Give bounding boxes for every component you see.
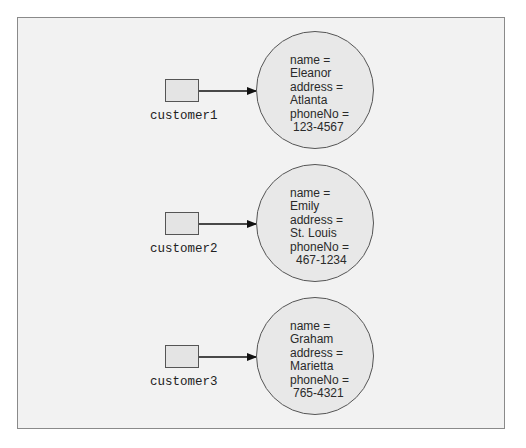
- field-value-phone: 467-1234: [290, 254, 349, 267]
- object-circle-customer2: name = Emily address = St. Louis phoneNo…: [256, 164, 374, 282]
- field-value-name: Eleanor: [290, 67, 349, 80]
- reference-box-customer3: [165, 345, 199, 368]
- field-label-name: name =: [290, 320, 349, 333]
- field-label-phone: phoneNo =: [290, 108, 349, 121]
- field-value-phone: 123-4567: [290, 121, 349, 134]
- field-value-address: Atlanta: [290, 94, 349, 107]
- field-value-name: Graham: [290, 333, 349, 346]
- variable-label-customer3: customer3: [150, 375, 218, 389]
- object-fields: name = Eleanor address = Atlanta phoneNo…: [290, 54, 349, 134]
- object-fields: name = Graham address = Marietta phoneNo…: [290, 320, 349, 400]
- field-value-phone: 765-4321: [290, 387, 349, 400]
- field-label-address: address =: [290, 214, 349, 227]
- field-label-address: address =: [290, 81, 349, 94]
- field-label-phone: phoneNo =: [290, 374, 349, 387]
- field-value-address: Marietta: [290, 360, 349, 373]
- object-circle-customer3: name = Graham address = Marietta phoneNo…: [256, 297, 374, 415]
- variable-label-customer2: customer2: [150, 242, 218, 256]
- object-circle-customer1: name = Eleanor address = Atlanta phoneNo…: [256, 31, 374, 149]
- field-value-name: Emily: [290, 200, 349, 213]
- object-fields: name = Emily address = St. Louis phoneNo…: [290, 187, 349, 267]
- field-label-name: name =: [290, 54, 349, 67]
- variable-label-customer1: customer1: [150, 109, 218, 123]
- field-label-address: address =: [290, 347, 349, 360]
- field-value-address: St. Louis: [290, 227, 349, 240]
- field-label-name: name =: [290, 187, 349, 200]
- reference-box-customer1: [165, 79, 199, 102]
- field-label-phone: phoneNo =: [290, 241, 349, 254]
- reference-box-customer2: [165, 212, 199, 235]
